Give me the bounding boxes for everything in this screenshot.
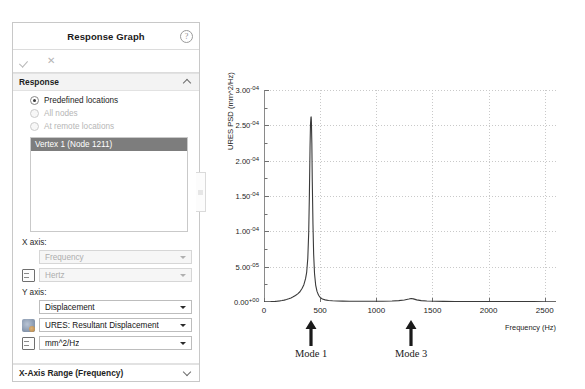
section-label-x-axis-range: X-Axis Range (Frequency) xyxy=(19,368,123,378)
chevron-down-icon xyxy=(180,256,186,259)
radio-icon[interactable] xyxy=(30,122,39,131)
x-axis-unit-select[interactable]: Hertz xyxy=(39,268,192,282)
x-tick-label: 500 xyxy=(313,306,326,315)
response-graph-panel: Response Graph ? ✕ Response Predefined l… xyxy=(12,22,200,382)
x-tick-label: 2500 xyxy=(536,306,554,315)
x-tick-label: 2000 xyxy=(480,306,498,315)
panel-action-bar: ✕ xyxy=(13,50,199,73)
list-item[interactable]: Vertex 1 (Node 1211) xyxy=(31,138,187,151)
radio-icon[interactable] xyxy=(30,109,39,118)
chevron-up-icon[interactable] xyxy=(184,78,192,86)
section-label-response: Response xyxy=(19,77,59,87)
y-axis-unit-select[interactable]: mm^2/Hz xyxy=(39,336,192,350)
x-tick-label: 1000 xyxy=(367,306,385,315)
component-icon xyxy=(22,319,35,332)
section-body-response: Predefined locations All nodes At remote… xyxy=(13,91,199,360)
panel-resize-handle[interactable] xyxy=(196,172,206,212)
y-tick-label: 2.50-04 xyxy=(236,120,259,131)
panel-header: Response Graph ? xyxy=(13,23,199,50)
y-tick-label: 5.00-05 xyxy=(236,261,259,272)
up-arrow-icon xyxy=(404,320,418,346)
y-axis-title: URES PSD (mm^2/Hz) xyxy=(226,72,235,150)
y-tick-label: 0.00+00 xyxy=(234,297,259,308)
y-axis-unit-row: mm^2/Hz xyxy=(20,336,192,350)
select-value: Displacement xyxy=(45,303,95,312)
select-value: URES: Resultant Displacement xyxy=(45,321,159,330)
y-tick-label: 1.00-04 xyxy=(236,226,259,237)
radio-icon[interactable] xyxy=(30,96,39,105)
check-icon[interactable] xyxy=(20,55,32,67)
chevron-down-icon xyxy=(180,306,186,309)
chevron-down-icon xyxy=(180,274,186,277)
chevron-down-icon[interactable] xyxy=(184,369,192,377)
radio-predefined-locations[interactable]: Predefined locations xyxy=(30,96,192,105)
plot-canvas xyxy=(264,90,556,302)
close-icon[interactable]: ✕ xyxy=(45,55,57,67)
radio-label: Predefined locations xyxy=(44,96,118,105)
page-title: Response Graph xyxy=(67,31,144,42)
handle-notch-icon xyxy=(198,190,203,195)
section-header-response[interactable]: Response xyxy=(13,73,199,91)
radio-label: At remote locations xyxy=(44,122,114,131)
y-tick-label: 1.50-04 xyxy=(236,191,259,202)
y-axis-quantity-select[interactable]: Displacement xyxy=(39,300,192,314)
help-icon[interactable]: ? xyxy=(180,30,193,43)
select-value: mm^2/Hz xyxy=(45,339,79,348)
y-axis-quantity-row: Displacement xyxy=(20,300,192,314)
radio-label: All nodes xyxy=(44,109,78,118)
unit-icon xyxy=(22,269,35,282)
unit-icon xyxy=(22,337,35,350)
x-axis-quantity-select[interactable]: Frequency xyxy=(39,250,192,264)
radio-all-nodes[interactable]: All nodes xyxy=(30,109,192,118)
chevron-down-icon xyxy=(180,324,186,327)
radio-at-remote-locations[interactable]: At remote locations xyxy=(30,122,192,131)
x-tick-label: 0 xyxy=(262,306,266,315)
select-value: Hertz xyxy=(45,271,65,280)
x-axis-quantity-row: Frequency xyxy=(20,250,192,264)
plot-frame: URES PSD (mm^2/Hz) 0.00+005.00-051.00-04… xyxy=(264,90,556,302)
locations-listbox[interactable]: Vertex 1 (Node 1211) xyxy=(30,137,188,232)
select-value: Frequency xyxy=(45,253,84,262)
annotation-label: Mode 3 xyxy=(395,348,427,359)
x-axis-title: Frequency (Hz) xyxy=(505,323,556,332)
y-axis-label: Y axis: xyxy=(22,288,192,297)
annotation-label: Mode 1 xyxy=(295,348,327,359)
y-tick-label: 2.00-04 xyxy=(236,155,259,166)
x-axis-unit-row: Hertz xyxy=(20,268,192,282)
section-header-x-axis-range[interactable]: X-Axis Range (Frequency) xyxy=(13,363,199,381)
chevron-down-icon xyxy=(180,342,186,345)
x-tick-label: 1500 xyxy=(424,306,442,315)
response-graph-chart: URES PSD (mm^2/Hz) 0.00+005.00-051.00-04… xyxy=(206,80,578,380)
up-arrow-icon xyxy=(304,320,318,346)
x-axis-label: X axis: xyxy=(22,238,192,247)
y-tick-label: 3.00-04 xyxy=(236,85,259,96)
y-axis-component-select[interactable]: URES: Resultant Displacement xyxy=(39,318,192,332)
y-axis-component-row: URES: Resultant Displacement xyxy=(20,318,192,332)
